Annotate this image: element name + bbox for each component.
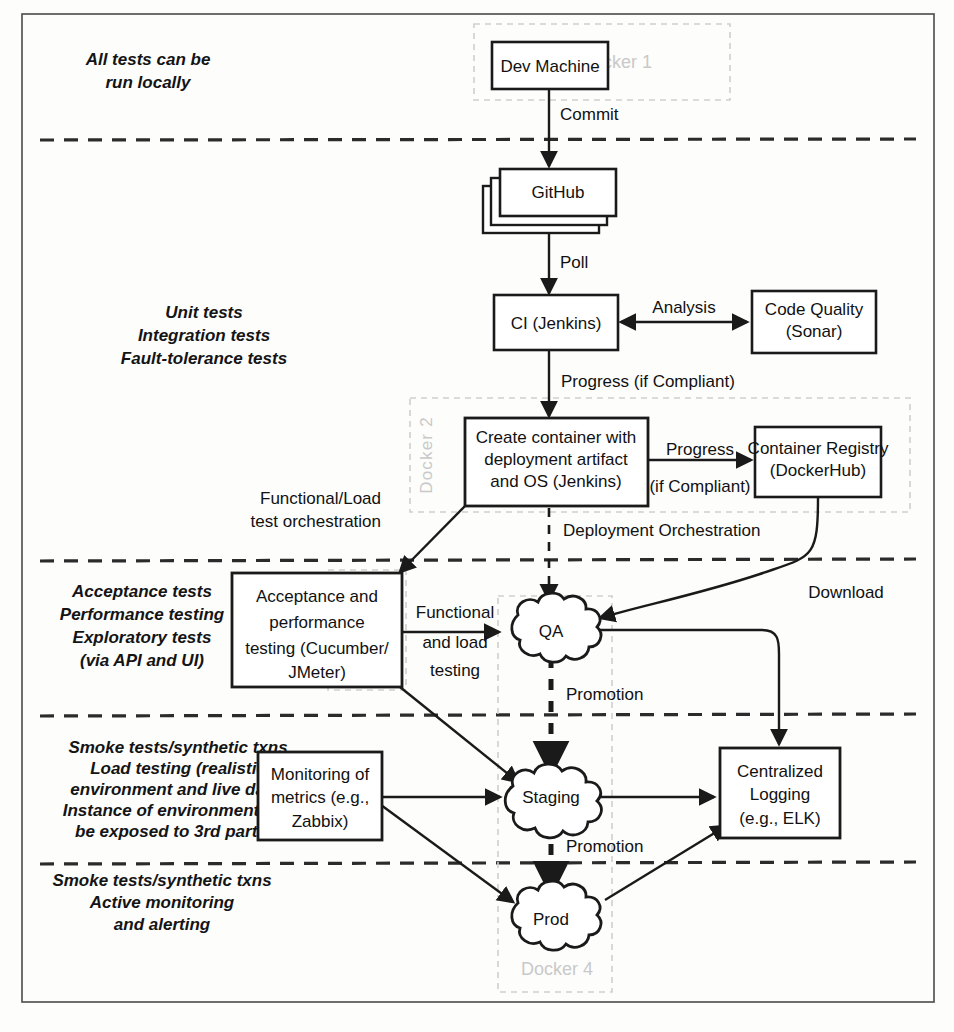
edge-label-promotion-qa: Promotion [566, 685, 643, 704]
node-label-logging-1: Centralized [737, 762, 823, 781]
edge-label-if-compliant: (if Compliant) [649, 477, 750, 496]
edge-label-and-load: and load [422, 633, 487, 652]
svg-text:Load testing (realistic: Load testing (realistic [90, 759, 266, 778]
edge-label-progress-if-compliant: Progress (if Compliant) [561, 372, 735, 391]
node-acceptance-testing[interactable]: Acceptance and performance testing (Cucu… [232, 573, 402, 687]
svg-text:Fault-tolerance tests: Fault-tolerance tests [121, 349, 287, 368]
node-label-acceptance-4: JMeter) [288, 663, 346, 682]
node-centralized-logging[interactable]: Centralized Logging (e.g., ELK) [720, 748, 840, 838]
svg-text:(via API and UI): (via API and UI) [80, 651, 204, 670]
svg-text:Exploratory tests: Exploratory tests [73, 628, 212, 647]
docker-4-label: Docker 4 [521, 959, 593, 979]
svg-text:be exposed to 3rd parties: be exposed to 3rd parties [75, 822, 281, 841]
node-label-container-registry-1: Container Registry [748, 439, 889, 458]
svg-text:run locally: run locally [105, 73, 192, 92]
svg-text:and alerting: and alerting [114, 915, 211, 934]
svg-text:environment and live data): environment and live data) [70, 780, 286, 799]
node-create-container[interactable]: Create container with deployment artifac… [465, 418, 648, 506]
node-label-logging-2: Logging [750, 785, 811, 804]
node-label-ci-jenkins: CI (Jenkins) [511, 314, 602, 333]
docker-2-label: Docker 2 [417, 416, 436, 494]
node-label-github: GitHub [532, 183, 585, 202]
lane-divider-1 [40, 139, 916, 140]
node-label-container-registry-2: (DockerHub) [770, 461, 866, 480]
node-label-prod: Prod [533, 910, 569, 929]
svg-text:Acceptance tests: Acceptance tests [71, 582, 212, 601]
outer-frame [22, 14, 934, 1002]
edge-label-commit: Commit [560, 105, 619, 124]
node-label-create-container-3: and OS (Jenkins) [490, 472, 621, 491]
node-container-registry[interactable]: Container Registry (DockerHub) [748, 427, 889, 497]
svg-text:Active monitoring: Active monitoring [89, 893, 235, 912]
node-label-qa: QA [539, 622, 564, 641]
node-ci-jenkins[interactable]: CI (Jenkins) [494, 295, 618, 350]
svg-text:Performance testing: Performance testing [60, 605, 225, 624]
node-label-code-quality-1: Code Quality [765, 300, 864, 319]
node-label-acceptance-1: Acceptance and [256, 587, 378, 606]
edge-label-deployment-orchestration: Deployment Orchestration [563, 521, 760, 540]
edge-label-download: Download [808, 583, 884, 602]
pipeline-diagram: Docker 1 Docker 2 Docker 3 Docker 4 All … [0, 0, 954, 1032]
edge-label-functional-load: Functional/Load [260, 489, 381, 508]
svg-text:Integration tests: Integration tests [138, 326, 270, 345]
node-dev-machine[interactable]: Dev Machine [492, 42, 608, 89]
node-label-dev-machine: Dev Machine [500, 57, 599, 76]
edge-label-testing: testing [430, 661, 480, 680]
lane-divider-3 [40, 714, 916, 716]
svg-text:All tests can be: All tests can be [85, 50, 211, 69]
node-code-quality[interactable]: Code Quality (Sonar) [752, 291, 876, 353]
svg-text:Unit tests: Unit tests [165, 303, 242, 322]
node-label-monitoring-1: Monitoring of [271, 765, 370, 784]
svg-text:Smoke tests/synthetic txns: Smoke tests/synthetic txns [52, 871, 271, 890]
edge-label-promotion-staging: Promotion [566, 837, 643, 856]
diagram-canvas: Docker 1 Docker 2 Docker 3 Docker 4 All … [0, 0, 954, 1032]
edge-label-test-orchestration: test orchestration [251, 512, 381, 531]
node-label-acceptance-3: testing (Cucumber/ [245, 639, 389, 658]
node-label-create-container-1: Create container with [476, 428, 637, 447]
edge-label-functional: Functional [416, 603, 494, 622]
node-label-staging: Staging [522, 788, 580, 807]
node-label-logging-3: (e.g., ELK) [739, 809, 820, 828]
edge-label-progress: Progress [666, 440, 734, 459]
node-label-monitoring-2: metrics (e.g., [271, 788, 369, 807]
node-monitoring-metrics[interactable]: Monitoring of metrics (e.g., Zabbix) [258, 752, 382, 840]
node-label-acceptance-2: performance [269, 613, 364, 632]
edge-label-analysis: Analysis [652, 298, 715, 317]
node-label-code-quality-2: (Sonar) [786, 322, 843, 341]
lane-divider-2 [40, 559, 916, 561]
node-github[interactable]: GitHub [483, 169, 616, 233]
edge-label-poll: Poll [560, 253, 588, 272]
lane-divider-4 [40, 862, 916, 864]
node-label-monitoring-3: Zabbix) [292, 812, 349, 831]
node-label-create-container-2: deployment artifact [484, 450, 628, 469]
svg-text:Smoke tests/synthetic txns: Smoke tests/synthetic txns [68, 738, 287, 757]
